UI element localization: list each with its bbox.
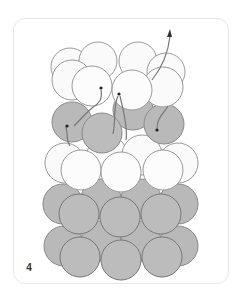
bottom-front-row — [60, 237, 182, 280]
arrow-head-icon — [167, 29, 172, 37]
white-front-row — [61, 150, 183, 192]
step-number: 4 — [23, 262, 35, 274]
mid-grey-front-row — [59, 194, 181, 237]
top-white-beads — [51, 42, 185, 110]
bead-diagram — [0, 0, 242, 295]
